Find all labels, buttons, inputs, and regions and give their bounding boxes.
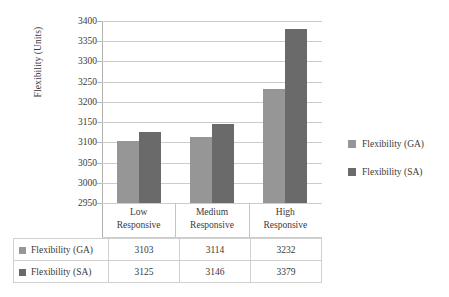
- table-cell: 3146: [180, 261, 251, 283]
- table-cell: 3103: [109, 239, 180, 261]
- y-tick-label: 3250: [37, 77, 97, 87]
- category-separator: [249, 203, 250, 237]
- legend-item-label: Flexibility (GA): [362, 139, 424, 149]
- legend-item: Flexibility (SA): [348, 158, 424, 186]
- table-cell: 3125: [109, 261, 180, 283]
- category-label-line: Responsive: [102, 219, 175, 232]
- y-tick-label: 3050: [37, 158, 97, 168]
- y-tick-label: 3400: [37, 16, 97, 26]
- y-tick-mark: [97, 203, 102, 204]
- y-tick-label: 2950: [37, 198, 97, 208]
- table-cell: 3232: [251, 239, 322, 261]
- category-label: MediumResponsive: [175, 206, 248, 231]
- legend-item: Flexibility (GA): [348, 130, 424, 158]
- bar: [117, 141, 139, 203]
- data-table: Flexibility (GA)310331143232Flexibility …: [13, 238, 322, 283]
- bar: [212, 124, 234, 203]
- y-tick-mark: [97, 122, 102, 123]
- table-cell: 3379: [251, 261, 322, 283]
- y-tick-mark: [97, 61, 102, 62]
- category-label-line: Responsive: [249, 219, 322, 232]
- table-row-label: Flexibility (SA): [31, 267, 91, 277]
- y-tick-label: 3000: [37, 178, 97, 188]
- y-tick-mark: [97, 102, 102, 103]
- y-tick-label: 3200: [37, 97, 97, 107]
- series-swatch-icon: [19, 247, 26, 254]
- y-tick-label: 3150: [37, 117, 97, 127]
- y-tick-mark: [97, 183, 102, 184]
- bar-chart: Flexibility (Units) 34003350330032503200…: [0, 0, 449, 297]
- table-row-header: Flexibility (SA): [14, 261, 109, 283]
- table-row-label: Flexibility (GA): [31, 245, 93, 255]
- bar: [263, 89, 285, 203]
- category-label: HighResponsive: [249, 206, 322, 231]
- y-tick-mark: [97, 41, 102, 42]
- legend-swatch-icon: [348, 168, 356, 176]
- y-tick-mark: [97, 142, 102, 143]
- y-tick-label: 3300: [37, 56, 97, 66]
- series-swatch-icon: [19, 269, 26, 276]
- y-tick-mark: [97, 21, 102, 22]
- gridline: [102, 203, 322, 204]
- legend-swatch-icon: [348, 140, 356, 148]
- gridline: [102, 21, 322, 22]
- legend-item-label: Flexibility (SA): [362, 167, 422, 177]
- table-row: Flexibility (SA)312531463379: [14, 261, 322, 283]
- table-row-header: Flexibility (GA): [14, 239, 109, 261]
- y-tick-mark: [97, 82, 102, 83]
- category-label-line: Medium: [175, 206, 248, 219]
- y-tick-mark: [97, 163, 102, 164]
- chart-legend: Flexibility (GA)Flexibility (SA): [348, 130, 424, 186]
- bar: [190, 137, 212, 203]
- y-tick-label: 3350: [37, 36, 97, 46]
- category-separator: [175, 203, 176, 237]
- bar: [285, 29, 307, 203]
- table-cell: 3114: [180, 239, 251, 261]
- category-label-line: Responsive: [175, 219, 248, 232]
- bar: [139, 132, 161, 203]
- category-label: LowResponsive: [102, 206, 175, 231]
- category-label-line: Low: [102, 206, 175, 219]
- category-label-line: High: [249, 206, 322, 219]
- y-tick-label: 3100: [37, 137, 97, 147]
- table-row: Flexibility (GA)310331143232: [14, 239, 322, 261]
